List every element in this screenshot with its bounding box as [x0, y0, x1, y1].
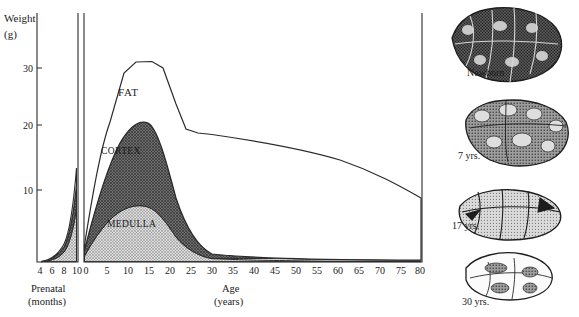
specimen-30yrs: [466, 253, 552, 300]
prenatal-tick-10: 10: [72, 265, 82, 276]
area-label-fat: FAT: [118, 86, 139, 98]
age-tick-70: 70: [375, 265, 385, 276]
y-axis-title-line2: (g): [4, 28, 17, 40]
prenatal-caption-line2: (months): [28, 296, 66, 307]
specimen-7yrs: [466, 100, 569, 166]
specimen-17yrs: [459, 189, 561, 240]
prenatal-panel: [37, 13, 78, 262]
age-tick-20: 20: [165, 265, 175, 276]
age-caption-line2: (years): [214, 296, 243, 307]
specimen-label-newborn: Newborn: [467, 67, 504, 78]
prenatal-caption-line1: Prenatal: [31, 283, 65, 294]
age-tick-50: 50: [291, 265, 301, 276]
specimen-label-30yrs: 30 yrs.: [462, 296, 489, 307]
specimen-label-7yrs: 7 yrs.: [458, 150, 480, 161]
age-tick-65: 65: [354, 265, 364, 276]
y-axis-tick-labels: 30 20 10: [23, 63, 33, 196]
y-tick-10: 10: [23, 185, 33, 196]
y-tick-20: 20: [23, 120, 33, 131]
figure-thymus-weight: 30 20 10 4 6 8 10 0 5 10 15 20 25 30 35 …: [0, 0, 579, 317]
age-tick-55: 55: [312, 265, 322, 276]
age-tick-0: 0: [84, 265, 89, 276]
age-tick-35: 35: [228, 265, 238, 276]
age-caption-line1: Age: [222, 283, 240, 294]
specimen-label-17yrs: 17 yrs.: [452, 220, 479, 231]
age-tick-25: 25: [186, 265, 196, 276]
chart-svg: 30 20 10 4 6 8 10 0 5 10 15 20 25 30 35 …: [0, 0, 579, 317]
prenatal-tick-4: 4: [38, 265, 43, 276]
prenatal-x-tick-labels: 4 6 8 10: [38, 265, 83, 276]
age-tick-40: 40: [249, 265, 259, 276]
age-tick-60: 60: [333, 265, 343, 276]
prenatal-tick-8: 8: [62, 265, 67, 276]
y-axis-title-line1: Weight: [4, 12, 36, 24]
age-tick-80: 80: [415, 265, 425, 276]
prenatal-tick-6: 6: [50, 265, 55, 276]
age-tick-5: 5: [105, 265, 110, 276]
age-tick-10: 10: [123, 265, 133, 276]
area-label-medulla: MEDULLA: [107, 219, 156, 229]
age-tick-30: 30: [207, 265, 217, 276]
y-tick-30: 30: [23, 63, 33, 74]
age-tick-75: 75: [396, 265, 406, 276]
y-axis-ticks: [37, 68, 42, 190]
age-tick-15: 15: [144, 265, 154, 276]
age-tick-45: 45: [270, 265, 280, 276]
age-x-tick-labels: 0 5 10 15 20 25 30 35 40 45 50 55 60 65 …: [84, 265, 426, 276]
area-label-cortex: CORTEX: [101, 146, 141, 156]
